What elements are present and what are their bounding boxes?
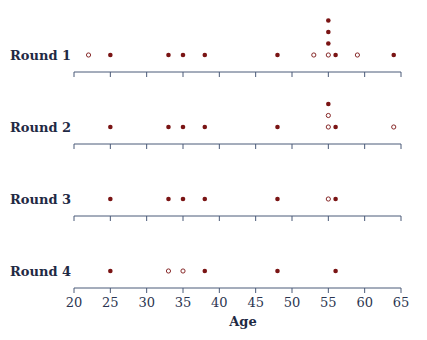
data-point-filled bbox=[326, 102, 331, 107]
data-point-open bbox=[86, 53, 90, 57]
data-point-open bbox=[355, 53, 359, 57]
data-point-filled bbox=[275, 53, 280, 58]
row-label: Round 3 bbox=[10, 192, 71, 207]
x-tick-label: 45 bbox=[247, 295, 264, 310]
row-label: Round 2 bbox=[10, 120, 71, 135]
x-axis-title: Age bbox=[228, 314, 256, 329]
x-tick-label: 35 bbox=[175, 295, 192, 310]
x-tick-label: 65 bbox=[393, 295, 410, 310]
data-point-filled bbox=[326, 18, 331, 23]
data-point-filled bbox=[108, 197, 113, 202]
chart-rows: Round 1Round 2Round 3Round 4 bbox=[10, 18, 401, 293]
x-tick-label: 60 bbox=[356, 295, 373, 310]
row-label: Round 1 bbox=[10, 48, 71, 63]
data-point-filled bbox=[166, 53, 171, 58]
data-point-filled bbox=[181, 125, 186, 130]
data-point-open bbox=[312, 53, 316, 57]
data-point-open bbox=[326, 125, 330, 129]
data-point-filled bbox=[275, 197, 280, 202]
data-point-filled bbox=[326, 30, 331, 35]
data-point-filled bbox=[333, 53, 338, 58]
data-point-open bbox=[166, 269, 170, 273]
data-point-filled bbox=[326, 41, 331, 46]
data-point-open bbox=[181, 269, 185, 273]
x-axis-tick-labels: 20253035404550556065 bbox=[66, 295, 410, 310]
data-point-open bbox=[392, 125, 396, 129]
data-point-filled bbox=[203, 197, 208, 202]
x-tick-label: 20 bbox=[66, 295, 83, 310]
data-point-filled bbox=[203, 269, 208, 274]
data-point-filled bbox=[333, 125, 338, 130]
data-point-filled bbox=[108, 269, 113, 274]
data-point-filled bbox=[181, 197, 186, 202]
data-point-open bbox=[326, 53, 330, 57]
data-point-filled bbox=[275, 125, 280, 130]
row-1: Round 1 bbox=[10, 18, 401, 77]
data-point-filled bbox=[333, 269, 338, 274]
dot-plot-chart: Round 1Round 2Round 3Round 4 20253035404… bbox=[0, 0, 427, 340]
data-point-filled bbox=[108, 125, 113, 130]
data-point-filled bbox=[181, 53, 186, 58]
data-point-open bbox=[326, 197, 330, 201]
row-3: Round 3 bbox=[10, 192, 401, 221]
data-point-open bbox=[326, 113, 330, 117]
data-point-filled bbox=[108, 53, 113, 58]
data-point-filled bbox=[333, 197, 338, 202]
data-point-filled bbox=[166, 125, 171, 130]
x-tick-label: 55 bbox=[320, 295, 337, 310]
data-point-filled bbox=[391, 53, 396, 58]
x-tick-label: 50 bbox=[284, 295, 301, 310]
data-point-filled bbox=[275, 269, 280, 274]
x-tick-label: 40 bbox=[211, 295, 228, 310]
row-2: Round 2 bbox=[10, 102, 401, 149]
x-tick-label: 25 bbox=[102, 295, 119, 310]
data-point-filled bbox=[203, 125, 208, 130]
x-tick-label: 30 bbox=[138, 295, 155, 310]
data-point-filled bbox=[203, 53, 208, 58]
row-4: Round 4 bbox=[10, 264, 401, 293]
data-point-filled bbox=[166, 197, 171, 202]
row-label: Round 4 bbox=[10, 264, 71, 279]
